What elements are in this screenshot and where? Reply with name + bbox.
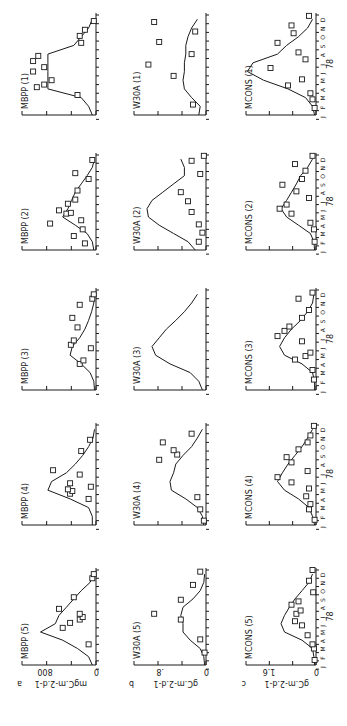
observation-point [75,93,80,98]
month-label: J [319,483,327,486]
observation-point [307,308,312,313]
row-letter: c [242,679,246,688]
month-label: J [319,73,327,76]
row-letter: a [17,679,22,688]
model-curve [48,19,92,115]
observation-point [152,611,157,616]
observation-point [308,91,313,96]
month-label: A [319,605,326,610]
month-label: D [319,292,326,297]
month-label: J [319,210,327,213]
observation-point [310,642,315,647]
observation-point [178,597,183,602]
observation-point [36,53,41,58]
observation-point [312,517,317,522]
observation-point [289,602,294,607]
observation-point [308,502,313,507]
observation-point [296,599,301,604]
month-label: M [319,95,326,100]
observation-point [198,637,203,642]
observation-point [189,52,194,57]
observation-point [88,346,93,351]
panel-w30a-1-: W30A (1) [133,13,209,119]
observation-point [275,475,280,480]
month-label: N [319,581,326,586]
panel-label: W30A (2) [133,207,142,244]
month-label: M [319,370,326,375]
month-label: O [319,445,326,450]
observation-point [311,377,316,382]
observation-point [65,201,70,206]
observation-point [291,31,296,36]
observation-point [73,197,78,202]
observation-point [171,73,176,78]
y-axis-label: mgC.m-2.d-1 [35,679,87,688]
observation-point [86,642,91,647]
month-label: D [319,572,326,577]
month-label: A [319,327,326,332]
observation-point [289,480,294,485]
observation-point [191,582,196,587]
observation-point [289,211,294,216]
observation-point [289,460,294,465]
panel-label: MCONS (4) [245,475,254,519]
observation-point [311,227,316,232]
observation-point [198,172,203,177]
month-label: F [319,241,326,245]
observation-point [275,334,280,339]
observation-point [70,315,75,320]
month-label: N [319,27,326,32]
panel-label: MCONS (3) [245,340,254,384]
observation-point [300,339,305,344]
observation-point [34,85,39,90]
month-label: M [319,78,326,83]
observation-point [310,568,315,573]
observation-point [79,40,84,45]
observation-point [293,357,298,362]
panel-label: MBPP (5) [21,623,30,659]
panel-w30a-3-: W30A (3) [133,288,209,394]
panel-mcons-1-: MCONS (1)JFMAMJJASOND78 [245,13,335,119]
month-label: M [319,215,326,220]
observation-point [284,202,289,207]
month-label: S [319,44,326,48]
observation-point [307,195,312,200]
observation-point [178,617,183,622]
observation-point [77,472,82,477]
observation-point [51,468,56,473]
observation-point [307,13,312,18]
observation-point [198,569,203,574]
observation-point [79,449,84,454]
observation-point [298,608,303,613]
tick-label-max: 1.6 [263,667,276,676]
observation-point [304,494,309,499]
observation-point [57,606,62,611]
observation-point [287,324,292,329]
panel-mbpp-3-: MBPP (3) [21,288,99,394]
observation-point [77,33,82,38]
month-label: J [319,116,327,119]
observation-point [42,65,47,70]
year-label: 78 [326,334,335,344]
observation-point [201,518,206,523]
year-label: 78 [326,196,335,206]
observation-point [308,350,313,355]
panel-mcons-5-: MCONS (5)JFMAMJJASOND7801.6gC.m-2.d-1c [242,568,335,689]
observation-point [68,210,73,215]
observation-point [201,153,206,158]
tick-label-max: .8 [156,667,164,676]
panel-label: MCONS (5) [245,615,254,659]
y-axis-label: gC.m-2.d-1 [264,679,309,688]
month-label: J [319,348,327,351]
month-label: M [319,630,326,635]
month-label: N [319,166,326,171]
month-label: M [319,353,326,358]
observation-point [305,633,310,638]
panel-mcons-4-: MCONS (4)JFMAMJJASOND78 [245,423,335,529]
month-label: J [319,391,327,394]
month-label: J [319,666,327,669]
observation-point [73,171,78,176]
month-label: S [319,454,326,458]
month-label: O [319,310,326,315]
observation-point [80,227,85,232]
